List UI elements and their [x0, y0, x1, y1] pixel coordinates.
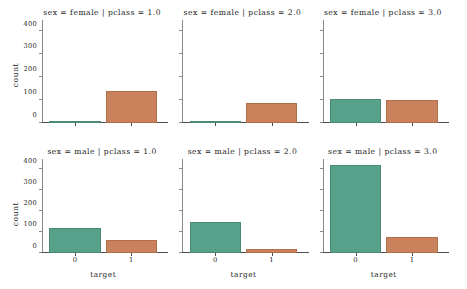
- panel-male-pclass-1: sex = male | pclass = 1.0 01002003004000…: [36, 145, 176, 284]
- panel-male-pclass-2: sex = male | pclass = 2.0 01 target: [176, 145, 316, 284]
- y-tick-mark: [39, 76, 42, 77]
- x-tick-mark: [215, 123, 216, 126]
- panel-title: sex = male | pclass = 2.0: [176, 147, 308, 156]
- bar-target-0: [330, 165, 381, 253]
- plot-area: 01: [182, 161, 304, 254]
- x-tick-mark: [75, 123, 76, 126]
- x-tick-label: 1: [129, 256, 134, 264]
- y-tick-mark: [39, 30, 42, 31]
- y-axis-line: [323, 20, 324, 123]
- bar-target-1: [106, 91, 157, 122]
- y-axis-line: [323, 159, 324, 254]
- y-tick-label: 200: [24, 199, 38, 207]
- y-tick-label: 100: [24, 220, 38, 228]
- y-tick-mark: [320, 189, 323, 190]
- y-axis-label: count: [11, 63, 20, 87]
- panel-title: sex = female | pclass = 3.0: [317, 8, 449, 17]
- y-tick-mark: [179, 99, 182, 100]
- x-tick-mark: [131, 123, 132, 126]
- y-axis-line: [182, 20, 183, 123]
- y-tick-mark: [320, 168, 323, 169]
- panel-male-pclass-3: sex = male | pclass = 3.0 01 target: [317, 145, 457, 284]
- bottom-spacer: [0, 283, 467, 289]
- panel-female-pclass-1: sex = female | pclass = 1.0 010020030040…: [36, 6, 176, 145]
- x-tick-label: 1: [269, 256, 274, 264]
- y-tick-mark: [179, 231, 182, 232]
- y-tick-mark: [39, 122, 42, 123]
- y-axis-label: count: [11, 202, 20, 226]
- y-tick-label: 300: [24, 42, 38, 50]
- panel-female-pclass-3: sex = female | pclass = 3.0: [317, 6, 457, 145]
- y-tick-mark: [320, 30, 323, 31]
- y-tick-mark: [320, 53, 323, 54]
- y-tick-mark: [39, 99, 42, 100]
- y-axis-line: [42, 20, 43, 123]
- y-tick-label: 100: [24, 88, 38, 96]
- bar-target-1: [246, 103, 297, 123]
- y-tick-mark: [320, 252, 323, 253]
- y-tick-mark: [320, 210, 323, 211]
- x-tick-label: 0: [73, 256, 78, 264]
- panel-title: sex = female | pclass = 2.0: [176, 8, 308, 17]
- y-tick-label: 0: [33, 111, 38, 119]
- plot-area: 01: [323, 161, 445, 254]
- y-tick-mark: [320, 99, 323, 100]
- y-tick-mark: [39, 53, 42, 54]
- x-axis-label: target: [323, 270, 445, 279]
- panel-title: sex = male | pclass = 1.0: [36, 147, 168, 156]
- y-tick-mark: [179, 53, 182, 54]
- y-tick-mark: [39, 168, 42, 169]
- x-axis-label: target: [42, 270, 164, 279]
- y-tick-mark: [179, 122, 182, 123]
- y-tick-label: 300: [24, 178, 38, 186]
- plot-area: 010020030040001: [42, 161, 164, 254]
- y-tick-mark: [179, 189, 182, 190]
- panel-female-pclass-2: sex = female | pclass = 2.0: [176, 6, 316, 145]
- plot-area: [323, 22, 445, 123]
- right-spacer-row-0: [457, 6, 467, 145]
- y-tick-mark: [179, 210, 182, 211]
- y-tick-label: 0: [33, 242, 38, 250]
- x-tick-mark: [272, 123, 273, 126]
- bar-target-1: [386, 237, 437, 253]
- y-tick-mark: [39, 252, 42, 253]
- x-tick-mark: [356, 123, 357, 126]
- y-tick-mark: [179, 30, 182, 31]
- plot-area: 0100200300400: [42, 22, 164, 123]
- x-tick-mark: [412, 123, 413, 126]
- y-axis-line: [182, 159, 183, 254]
- bar-target-0: [190, 222, 241, 253]
- y-tick-mark: [320, 76, 323, 77]
- facet-grid: count sex = female | pclass = 1.0 010020…: [0, 0, 467, 289]
- bar-target-0: [49, 228, 100, 253]
- y-tick-mark: [179, 168, 182, 169]
- y-tick-mark: [179, 76, 182, 77]
- x-tick-label: 0: [213, 256, 218, 264]
- y-tick-mark: [179, 252, 182, 253]
- right-spacer-row-1: [457, 145, 467, 284]
- y-tick-mark: [39, 210, 42, 211]
- x-axis-label: target: [182, 270, 304, 279]
- y-tick-label: 400: [24, 157, 38, 165]
- panel-title: sex = male | pclass = 3.0: [317, 147, 449, 156]
- panel-title: sex = female | pclass = 1.0: [36, 8, 168, 17]
- x-tick-label: 0: [353, 256, 358, 264]
- y-tick-mark: [39, 231, 42, 232]
- y-tick-label: 400: [24, 20, 38, 28]
- bar-target-1: [386, 100, 437, 123]
- y-tick-mark: [320, 231, 323, 232]
- y-tick-label: 200: [24, 65, 38, 73]
- y-tick-mark: [320, 122, 323, 123]
- bar-target-0: [330, 99, 381, 123]
- y-axis-line: [42, 159, 43, 254]
- x-tick-label: 1: [410, 256, 415, 264]
- y-tick-mark: [39, 189, 42, 190]
- bar-target-1: [106, 240, 157, 253]
- plot-area: [182, 22, 304, 123]
- facet-grid-figure: count sex = female | pclass = 1.0 010020…: [0, 0, 467, 289]
